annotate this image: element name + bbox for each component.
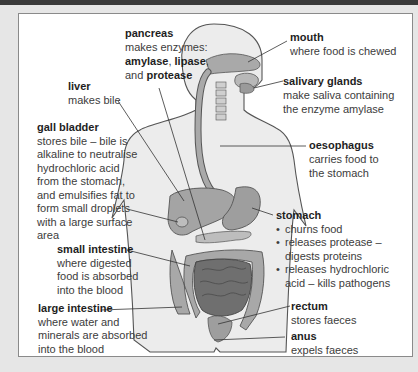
pancreas-enzymes: amylase, lipase, xyxy=(125,54,209,68)
enzyme-protease: protease xyxy=(146,69,192,81)
anus-title: anus xyxy=(291,329,358,343)
stomach-bullets: churns food releases protease –digests p… xyxy=(276,223,390,291)
pancreas-desc: makes enzymes: xyxy=(125,40,209,54)
pancreas-title: pancreas xyxy=(125,26,209,40)
rectum-title: rectum xyxy=(291,299,356,313)
label-anus: anus expels faeces xyxy=(291,329,358,357)
label-stomach: stomach churns food releases protease –d… xyxy=(276,209,390,290)
label-oesophagus: oesophagus carries food to the stomach xyxy=(309,138,379,180)
stomach-bullet: churns food xyxy=(276,223,390,237)
small-intestine-title: small intestine xyxy=(57,243,138,257)
stomach-bullet: releases hydrochloricacid – kills pathog… xyxy=(276,263,390,290)
label-pancreas: pancreas makes enzymes: amylase, lipase,… xyxy=(125,26,209,82)
gall-bladder-title: gall bladder xyxy=(37,121,137,135)
pancreas-enzymes-2: and protease xyxy=(125,68,209,82)
large-intestine-title: large intestine xyxy=(38,302,147,316)
mouth-title: mouth xyxy=(290,30,396,44)
spine xyxy=(216,82,226,120)
label-liver: liver makes bile xyxy=(68,79,121,107)
enzyme-amylase: amylase xyxy=(125,55,168,67)
label-salivary-glands: salivary glands make saliva containing t… xyxy=(283,74,394,116)
stomach-title: stomach xyxy=(276,209,390,223)
label-mouth: mouth where food is chewed xyxy=(290,30,396,58)
label-gall-bladder: gall bladder stores bile – bile is alkal… xyxy=(37,121,137,243)
label-small-intestine: small intestine where digested food is a… xyxy=(57,243,138,297)
enzyme-lipase: lipase xyxy=(175,55,206,67)
oesophagus-title: oesophagus xyxy=(309,138,379,152)
salivary-glands-title: salivary glands xyxy=(283,74,394,88)
mouth-desc: where food is chewed xyxy=(290,44,396,58)
small-intestine xyxy=(194,259,252,316)
liver-title: liver xyxy=(68,79,121,93)
label-large-intestine: large intestine where water and minerals… xyxy=(38,302,147,356)
label-rectum: rectum stores faeces xyxy=(291,299,356,327)
stomach-bullet: releases protease –digests proteins xyxy=(276,236,390,263)
